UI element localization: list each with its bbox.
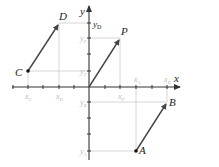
axes: [12, 6, 180, 160]
vector-cd: [28, 25, 58, 71]
y-tick-a: yA: [79, 147, 88, 157]
y-tick-d: yD: [92, 19, 102, 30]
label-p: P: [120, 25, 128, 37]
x-tick-p: xP: [117, 92, 125, 102]
vector-op: [89, 40, 119, 87]
label-d: D: [58, 10, 67, 22]
x-tick-b: xB: [163, 75, 171, 85]
x-axis-label: x: [173, 72, 179, 84]
point-a-dot: [134, 149, 138, 153]
point-c-dot: [26, 69, 30, 73]
label-b: B: [169, 96, 176, 108]
x-tick-c: xC: [24, 92, 33, 102]
label-c: C: [15, 66, 23, 78]
y-tick-c: yC: [79, 67, 88, 77]
x-tick-d: xD: [55, 92, 64, 102]
vectors: [28, 25, 166, 151]
y-axis-label: y: [79, 5, 85, 17]
label-a: A: [138, 144, 146, 156]
y-tick-b: yB: [79, 98, 87, 108]
y-tick-p: yP: [79, 34, 87, 44]
coordinate-diagram: C D P B A x y yD yP yC yB yA xC xD xP xA…: [0, 0, 219, 167]
x-tick-a: xA: [133, 75, 142, 85]
